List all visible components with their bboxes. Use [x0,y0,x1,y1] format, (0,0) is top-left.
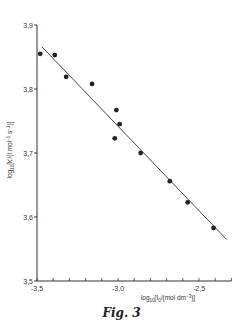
x-tick-label: -3,0 [112,285,124,292]
y-tick-label: 3,9 [23,22,33,29]
y-axis-label: log10[k′/(l mol−1 s−1)] [6,121,15,178]
chart: 3,53,63,73,83,9-3,5-3,0-2,5 log10[k′/(l … [0,0,243,334]
x-tick-label: -3,5 [31,285,43,292]
y-tick-label: 3,8 [23,86,33,93]
data-point [64,74,69,79]
y-tick-label: 3,6 [23,214,33,221]
y-tick-label: 3,5 [23,278,33,285]
data-points [38,51,216,230]
data-point [114,108,119,113]
fit-line [42,47,227,240]
data-point [90,81,95,86]
x-axis-label: log10[I0/(mol dm−3)] [141,294,195,303]
x-tick-label: -2,5 [193,285,205,292]
y-tick-label: 3,7 [23,150,33,157]
regression-line [42,47,227,240]
axes: 3,53,63,73,83,9-3,5-3,0-2,5 [23,22,231,293]
data-point [112,136,117,141]
data-point [167,179,172,184]
figure-caption: Fig. 3 [0,306,243,320]
data-point [52,53,57,58]
data-point [38,51,43,56]
